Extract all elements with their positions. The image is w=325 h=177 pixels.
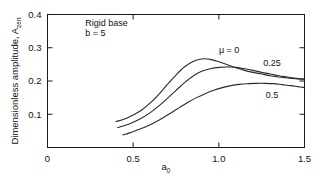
x-tick-label: 0.5	[127, 153, 140, 164]
curve-label: 0.5	[266, 90, 279, 100]
curve-label: 0.25	[263, 58, 281, 68]
y-tick-label: 0.4	[28, 9, 41, 20]
x-tick-labels: 00.51.01.5	[45, 153, 311, 164]
y-tick-label: 0.1	[28, 109, 41, 120]
plot-annotation: Rigid base	[85, 18, 128, 28]
y-tick-label: 0.2	[28, 75, 41, 86]
x-tick-label: 1.0	[212, 153, 225, 164]
y-tick-labels: 0.10.20.30.4	[28, 9, 41, 120]
y-axis-title: Dimensionless amplitude, Azen	[9, 17, 22, 145]
x-tick-label: 1.5	[298, 153, 311, 164]
x-tick-label: 0	[45, 153, 50, 164]
x-axis-title: a0	[162, 161, 171, 174]
chart-canvas: 00.51.01.5 0.10.20.30.4 μ = 00.250.5 Rig…	[0, 0, 325, 177]
plot-annotation: b = 5	[85, 28, 105, 38]
figure-container: 00.51.01.5 0.10.20.30.4 μ = 00.250.5 Rig…	[0, 0, 325, 177]
y-tick-label: 0.3	[28, 42, 41, 53]
plot-annotations: Rigid baseb = 5	[85, 18, 128, 38]
curve-label: μ = 0	[219, 45, 239, 55]
